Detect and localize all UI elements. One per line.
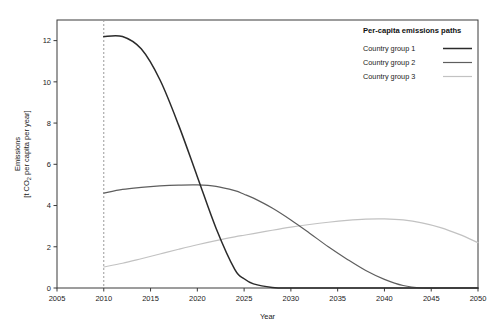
y-axis-title-line2: [t CO2 per capita per year]	[22, 110, 32, 197]
x-tick-label: 2040	[376, 294, 393, 303]
emissions-paths-figure: 2005201020152020202520302035204020452050…	[0, 0, 495, 331]
legend-entry-label: Country group 2	[363, 58, 415, 67]
y-tick-label: 12	[43, 36, 51, 45]
emissions-line-chart: 2005201020152020202520302035204020452050…	[0, 0, 495, 331]
y-tick-label: 4	[47, 201, 51, 210]
x-tick-label: 2025	[236, 294, 253, 303]
legend-title: Per-capita emissions paths	[363, 26, 461, 35]
y-tick-label: 10	[43, 78, 51, 87]
x-tick-label: 2015	[142, 294, 159, 303]
x-tick-label: 2030	[283, 294, 300, 303]
y-tick-label: 2	[47, 243, 51, 252]
y-axis-title-line1: Emissions	[13, 137, 22, 171]
y-tick-label: 8	[47, 119, 51, 128]
x-tick-label: 2020	[189, 294, 206, 303]
x-tick-label: 2035	[329, 294, 346, 303]
x-tick-label: 2010	[95, 294, 112, 303]
legend-entry-label: Country group 3	[363, 72, 415, 81]
x-tick-label: 2050	[470, 294, 487, 303]
y-unit-suffix: per capita per year]	[22, 110, 31, 177]
x-tick-label: 2045	[423, 294, 440, 303]
y-tick-label: 0	[47, 284, 51, 293]
y-tick-label: 6	[47, 160, 51, 169]
y-unit-prefix: [t CO	[22, 180, 31, 198]
legend-entry-label: Country group 1	[363, 44, 415, 53]
x-axis-title: Year	[260, 312, 276, 321]
x-tick-label: 2005	[49, 294, 66, 303]
